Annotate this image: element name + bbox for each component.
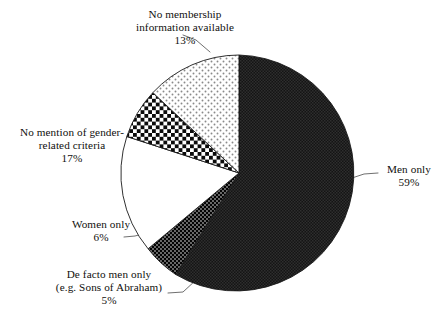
slice-label-no-membership-info: No membership information available 13%: [112, 8, 258, 46]
slice-label-line2: related criteria: [2, 139, 142, 152]
slice-label-men-only: Men only 59%: [374, 163, 444, 189]
slice-label-percent: 5%: [30, 294, 188, 307]
pie-slices: [121, 55, 354, 291]
slice-label-line2: (e.g. Sons of Abraham): [30, 281, 188, 294]
slice-label-percent: 13%: [112, 34, 258, 47]
slice-label-percent: 59%: [374, 176, 444, 189]
slice-label-line1: De facto men only: [30, 268, 188, 281]
slice-label-line1: No membership: [112, 8, 258, 21]
slice-label-line1: Women only: [44, 218, 158, 231]
slice-label-de-facto-men-only: De facto men only (e.g. Sons of Abraham)…: [30, 268, 188, 306]
slice-label-percent: 17%: [2, 152, 142, 165]
slice-label-percent: 6%: [44, 231, 158, 244]
slice-label-line1: No mention of gender-: [2, 126, 142, 139]
pie-chart: No membership information available 13% …: [0, 0, 445, 328]
slice-label-no-mention-gender: No mention of gender- related criteria 1…: [2, 126, 142, 164]
slice-label-line2: information available: [112, 21, 258, 34]
slice-label-women-only: Women only 6%: [44, 218, 158, 244]
slice-label-line1: Men only: [374, 163, 444, 176]
